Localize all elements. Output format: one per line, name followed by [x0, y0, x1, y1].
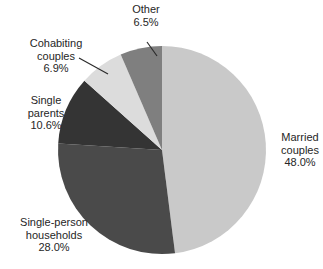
other-label-line1: Other — [116, 3, 176, 16]
single-person-label-pct: 28.0% — [8, 241, 100, 254]
married-couples-slice-label: Married couples 48.0% — [277, 131, 323, 169]
other-label-pct: 6.5% — [116, 16, 176, 29]
single-person-label-line1: Single-person — [8, 216, 100, 229]
single-person-households-slice-label: Single-person households 28.0% — [8, 216, 100, 254]
single-person-label-line2: households — [8, 229, 100, 242]
married-label-pct: 48.0% — [277, 156, 323, 169]
other-slice-label: Other 6.5% — [116, 3, 176, 28]
pie-slice-married-couples — [162, 46, 266, 253]
cohabiting-label-pct: 6.9% — [14, 62, 98, 75]
single-parents-label-pct: 10.6% — [10, 119, 82, 132]
married-label-line2: couples — [277, 144, 323, 157]
married-label-line1: Married — [277, 131, 323, 144]
pie-chart: Other 6.5% Cohabiting couples 6.9% Singl… — [0, 0, 323, 269]
cohabiting-couples-slice-label: Cohabiting couples 6.9% — [14, 37, 98, 75]
cohabiting-label-line1: Cohabiting — [14, 37, 98, 50]
cohabiting-label-line2: couples — [14, 50, 98, 63]
single-parents-label-line1: Single — [10, 94, 82, 107]
single-parents-slice-label: Single parents 10.6% — [10, 94, 82, 132]
single-parents-label-line2: parents — [10, 107, 82, 120]
